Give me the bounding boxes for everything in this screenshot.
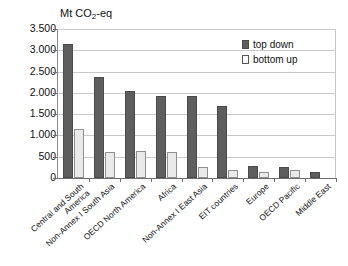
legend-swatch-icon <box>242 40 249 49</box>
x-axis-labels: Central and South AmericaNon-Annex I Sou… <box>0 178 348 266</box>
legend-label: top down <box>253 38 294 52</box>
bar-bottom-up <box>198 167 208 178</box>
y-axis-tick-mark <box>53 135 57 136</box>
bar-top-down <box>63 44 73 178</box>
y-axis-tick-mark <box>53 50 57 51</box>
bar-top-down <box>279 167 289 178</box>
bar-bottom-up <box>136 151 146 178</box>
y-axis-tick-mark <box>53 114 57 115</box>
y-axis-title-prefix: Mt CO <box>60 7 92 19</box>
bar-bottom-up <box>290 170 300 178</box>
bar-top-down <box>248 166 258 178</box>
legend-item: bottom up <box>242 52 297 67</box>
legend-swatch-icon <box>242 55 249 64</box>
y-axis-tick-mark <box>53 157 57 158</box>
y-axis-tick-mark <box>53 72 57 73</box>
bar-bottom-up <box>74 129 84 178</box>
legend-item: top down <box>242 37 297 52</box>
bar-chart: Mt CO2-eq 3.5003.0002.5002.0001.5001.000… <box>0 0 348 266</box>
y-axis-title: Mt CO2-eq <box>60 7 112 23</box>
chart-legend: top downbottom up <box>242 37 297 67</box>
bar-bottom-up <box>167 152 177 178</box>
bar-top-down <box>217 106 227 178</box>
bar-top-down <box>156 96 166 178</box>
bar-bottom-up <box>228 170 238 179</box>
y-axis-title-suffix: -eq <box>96 7 112 19</box>
y-axis-tick-mark <box>53 29 57 30</box>
legend-label: bottom up <box>253 53 297 67</box>
bar-bottom-up <box>105 152 115 178</box>
bar-top-down <box>187 96 197 178</box>
bar-top-down <box>94 77 104 178</box>
bar-top-down <box>125 91 135 178</box>
y-axis-tick-mark <box>53 93 57 94</box>
